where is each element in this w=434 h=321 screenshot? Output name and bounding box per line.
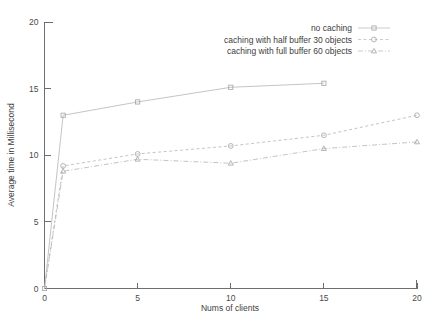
series-group	[42, 81, 419, 290]
legend-label: no caching	[311, 23, 352, 33]
y-tick-label: 5	[34, 217, 39, 227]
series-0	[45, 81, 326, 288]
y-tick-label: 20	[29, 17, 39, 27]
x-tick-label: 20	[412, 293, 422, 303]
series-line	[45, 83, 324, 288]
series-1	[45, 113, 420, 289]
x-tick-label: 15	[319, 293, 329, 303]
x-tick-label: 0	[42, 293, 47, 303]
y-tick-label: 15	[29, 84, 39, 94]
chart-container: 05101520 05101520 Nums of clients Averag…	[0, 0, 434, 321]
x-tick-label: 5	[135, 293, 140, 303]
x-axis-ticks: 05101520	[42, 283, 422, 303]
y-tick-label: 10	[29, 150, 39, 160]
legend: no cachingcaching with half buffer 30 ob…	[224, 23, 390, 56]
y-axis-title: Average time in Millisecond	[6, 103, 16, 207]
axes-group	[45, 22, 418, 289]
legend-label: caching with half buffer 30 objects	[224, 35, 352, 45]
y-tick-label: 0	[34, 284, 39, 294]
series-2	[45, 139, 420, 288]
data-point-marker	[415, 139, 420, 143]
series-line	[45, 142, 418, 289]
legend-label: caching with full buffer 60 objects	[227, 46, 352, 56]
x-axis-title: Nums of clients	[201, 303, 259, 313]
series-line	[45, 115, 418, 288]
line-chart: 05101520 05101520 Nums of clients Averag…	[0, 0, 434, 321]
y-axis-ticks: 05101520	[29, 17, 50, 294]
x-tick-label: 10	[226, 293, 236, 303]
